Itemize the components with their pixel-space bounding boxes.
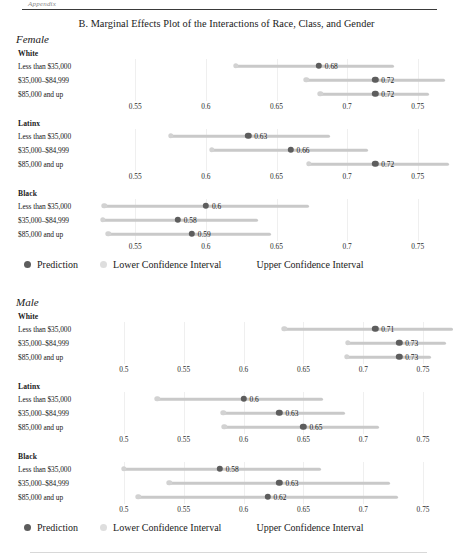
panel-female-white: WhiteLess than $35,0000.68$35,000–$84,99… — [0, 49, 453, 114]
gridline — [184, 406, 185, 420]
row-plot: 0.71 — [100, 322, 453, 336]
confidence-interval-band — [309, 163, 449, 166]
data-row: $35,000–$84,9990.58 — [0, 213, 453, 227]
figure-page: Appendix B. Marginal Effects Plot of the… — [0, 0, 453, 558]
prediction-dot — [316, 63, 322, 69]
gridline — [347, 213, 348, 227]
data-row: Less than $35,0000.71 — [0, 322, 453, 336]
gridline — [277, 213, 278, 227]
prediction-dot — [276, 480, 282, 486]
prediction-value-label: 0.72 — [381, 160, 394, 169]
race-heading: Black — [18, 189, 453, 198]
prediction-value-label: 0.58 — [184, 216, 197, 225]
legend-label-prediction: Prediction — [37, 522, 78, 533]
gridline — [184, 336, 185, 350]
x-axis-tick-label: 0.65 — [270, 172, 283, 181]
data-row: $35,000–$84,9990.66 — [0, 143, 453, 157]
x-axis-tick-label: 0.6 — [201, 242, 210, 251]
panel-rows: Less than $35,0000.6$35,000–$84,9990.63$… — [0, 392, 453, 434]
gridline — [135, 87, 136, 101]
gridline — [418, 213, 419, 227]
data-row: $85,000 and up0.72 — [0, 157, 453, 171]
legend-label-prediction: Prediction — [37, 259, 78, 270]
x-axis-tick-label: 0.7 — [342, 172, 351, 181]
prediction-value-label: 0.66 — [297, 146, 310, 155]
gridline — [244, 336, 245, 350]
lower-ci-dot — [344, 354, 349, 359]
data-row: $35,000–$84,9990.72 — [0, 73, 453, 87]
bottom-rule — [30, 552, 427, 553]
panel-rows: Less than $35,0000.6$35,000–$84,9990.58$… — [0, 199, 453, 241]
race-heading: Black — [18, 452, 453, 461]
x-axis-tick-label: 0.7 — [359, 435, 368, 444]
race-heading: Latinx — [18, 119, 453, 128]
data-row: Less than $35,0000.68 — [0, 59, 453, 73]
prediction-dot — [245, 133, 251, 139]
lower-ci-dot — [303, 77, 308, 82]
gridline — [303, 336, 304, 350]
x-axis-tick-label: 0.55 — [177, 435, 190, 444]
x-axis-tick-label: 0.5 — [119, 435, 128, 444]
prediction-value-label: 0.68 — [325, 62, 338, 71]
data-row: $35,000–$84,9990.63 — [0, 476, 453, 490]
data-row: Less than $35,0000.63 — [0, 129, 453, 143]
gridline — [206, 73, 207, 87]
legend-label-upper-ci: Upper Confidence Interval — [256, 259, 363, 270]
x-axis: 0.50.550.60.650.70.75 — [100, 504, 453, 517]
gridline — [347, 227, 348, 241]
row-label: $35,000–$84,999 — [0, 146, 100, 155]
x-axis: 0.50.550.60.650.70.75 — [100, 364, 453, 377]
data-row: $85,000 and up0.65 — [0, 420, 453, 434]
legend-label-lower-ci: Lower Confidence Interval — [113, 259, 221, 270]
lower-ci-dot — [282, 326, 287, 331]
prediction-value-label: 0.6 — [250, 395, 259, 404]
prediction-value-label: 0.65 — [309, 423, 322, 432]
prediction-value-label: 0.6 — [212, 202, 221, 211]
x-axis-tick-label: 0.55 — [177, 505, 190, 514]
prediction-dot — [240, 396, 246, 402]
prediction-dot — [300, 424, 306, 430]
row-plot: 0.65 — [100, 420, 453, 434]
prediction-value-label: 0.63 — [285, 409, 298, 418]
panel-rows: Less than $35,0000.63$35,000–$84,9990.66… — [0, 129, 453, 171]
x-axis-tick-label: 0.55 — [129, 102, 142, 111]
row-label: $35,000–$84,999 — [0, 216, 100, 225]
gridline — [206, 87, 207, 101]
gridline — [206, 143, 207, 157]
x-axis-tick-label: 0.6 — [239, 505, 248, 514]
prediction-value-label: 0.72 — [381, 76, 394, 85]
row-plot: 0.63 — [100, 476, 453, 490]
row-label: Less than $35,000 — [0, 132, 100, 141]
gridline — [303, 350, 304, 364]
prediction-dot — [287, 147, 293, 153]
x-axis: 0.550.60.650.70.75 — [100, 241, 453, 254]
gridline — [418, 143, 419, 157]
row-plot: 0.72 — [100, 87, 453, 101]
prediction-value-label: 0.58 — [226, 465, 239, 474]
row-plot: 0.63 — [100, 129, 453, 143]
lower-ci-dot — [345, 340, 350, 345]
lower-ci-dot — [221, 410, 226, 415]
prediction-dot — [372, 91, 378, 97]
x-axis-tick-label: 0.6 — [239, 365, 248, 374]
legend-item-upper-ci: Upper Confidence Interval — [243, 522, 363, 533]
row-label: Less than $35,000 — [0, 325, 100, 334]
female-panel-group: WhiteLess than $35,0000.68$35,000–$84,99… — [0, 49, 453, 254]
lower-ci-dot — [233, 63, 238, 68]
gridline — [423, 476, 424, 490]
panel-rows: Less than $35,0000.71$35,000–$84,9990.73… — [0, 322, 453, 364]
prediction-dot — [264, 494, 270, 500]
gridline — [423, 392, 424, 406]
gridline — [244, 322, 245, 336]
gridline — [124, 350, 125, 364]
prediction-dot — [276, 410, 282, 416]
x-axis-tick-label: 0.7 — [359, 505, 368, 514]
upper-ci-dot-icon — [243, 261, 250, 268]
panel-male-black: BlackLess than $35,0000.58$35,000–$84,99… — [0, 452, 453, 517]
race-heading: Latinx — [18, 382, 453, 391]
x-axis-tick-label: 0.75 — [411, 242, 424, 251]
gridline — [184, 350, 185, 364]
lower-ci-dot-icon — [100, 524, 107, 531]
row-plot: 0.73 — [100, 350, 453, 364]
prediction-dot — [372, 77, 378, 83]
